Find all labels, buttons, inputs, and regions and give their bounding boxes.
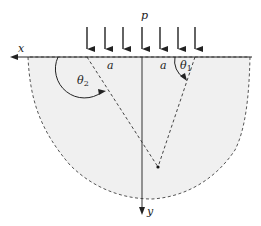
y-axis-arrowhead <box>139 207 145 215</box>
diagram-canvas <box>0 0 261 226</box>
theta2-label: θ2 <box>77 75 89 88</box>
half-width-right-label: a <box>160 60 167 71</box>
load-arrows <box>87 27 195 49</box>
point-marker <box>156 165 159 168</box>
x-axis-label: x <box>18 43 24 54</box>
stress-bulb-region <box>28 57 250 199</box>
x-axis-arrowhead <box>10 54 18 60</box>
y-axis-label: y <box>147 206 153 217</box>
load-label: p <box>141 10 148 21</box>
theta1-label: θ1 <box>180 60 192 73</box>
half-width-left-label: a <box>107 60 114 71</box>
